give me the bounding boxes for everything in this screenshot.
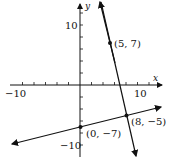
point-5-7 — [108, 41, 112, 45]
y-tick-label-10: 10 — [65, 20, 78, 31]
x-tick-label-10: 10 — [134, 88, 147, 99]
point-label-5-7: (5, 7) — [114, 38, 141, 49]
coordinate-plane: y x −10 10 10 −10 (5, 7) (8, −5) (0, −7) — [0, 0, 173, 160]
point-8-neg5 — [125, 114, 129, 118]
point-label-0-neg7: (0, −7) — [86, 128, 121, 139]
y-tick-label-neg10: −10 — [60, 140, 81, 151]
y-axis-label: y — [84, 1, 91, 11]
point-0-neg7 — [79, 125, 83, 129]
point-label-8-neg5: (8, −5) — [131, 116, 166, 127]
x-tick-label-neg10: −10 — [5, 88, 26, 99]
x-axis-label: x — [153, 73, 158, 83]
